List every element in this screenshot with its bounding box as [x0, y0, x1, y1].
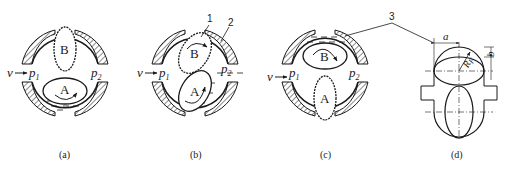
leader-line-2 [221, 27, 229, 41]
caption-a: (a) [59, 149, 70, 161]
callout-1: 1 [207, 13, 213, 24]
dimension-a-label: a [443, 30, 449, 42]
panel-c: B A v p1 p2 [267, 30, 368, 120]
panel-b: B A v p1 p2 [137, 25, 243, 117]
inlet-velocity-label: v [267, 69, 273, 84]
p1-label: p1 [288, 65, 300, 82]
caption-d: (d) [451, 149, 463, 161]
callout-2: 2 [228, 17, 234, 28]
inlet-velocity-label: v [7, 65, 13, 80]
p1-label: p1 [28, 65, 40, 82]
rotor-a-label: A [190, 84, 200, 99]
p2-label: p2 [90, 65, 102, 82]
rotor-a-label: A [60, 82, 70, 97]
rotor-b-label: B [320, 49, 329, 64]
rotor-b-label: B [190, 46, 199, 61]
dimension-b-label: b [484, 51, 496, 57]
callout-3: 3 [389, 11, 395, 22]
inlet-velocity-label: v [137, 65, 143, 80]
panel-a: B A v p1 p2 [7, 27, 108, 116]
rotor-b-label: B [60, 42, 69, 57]
roots-blower-diagram: B A v p1 p2 (a) B A v [0, 0, 505, 170]
caption-b: (b) [190, 149, 202, 161]
p1-label: p1 [158, 65, 170, 82]
p2-label: p2 [348, 65, 360, 82]
rotor-a-label: A [320, 91, 330, 106]
callout-3-leaders [345, 23, 434, 43]
caption-c: (c) [320, 149, 331, 161]
